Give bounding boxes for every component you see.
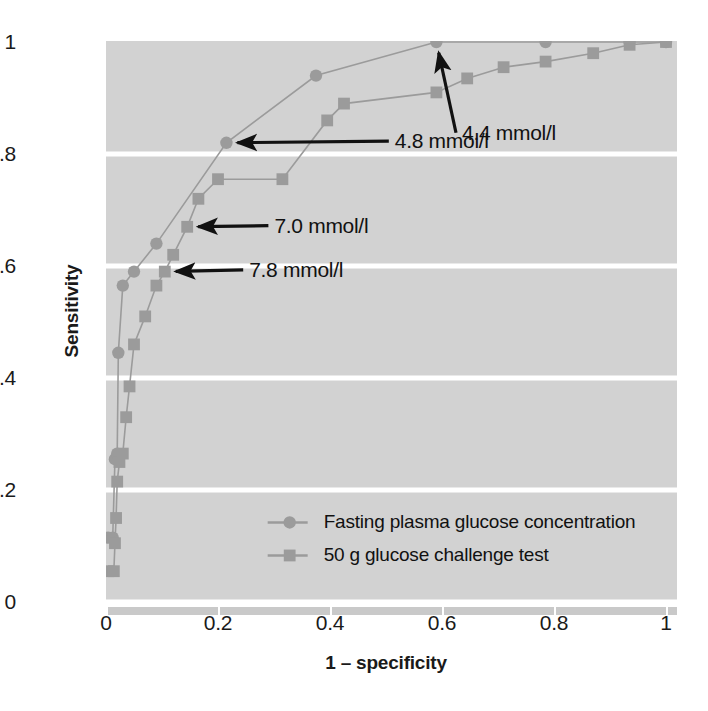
x-tick-label-1: 1 bbox=[636, 612, 696, 633]
y-tick-label-0: 0 bbox=[0, 591, 16, 612]
y-tick-label-08: 0.8 bbox=[0, 143, 16, 164]
y-tick-label-1: 1 bbox=[0, 31, 16, 52]
y-tick-label-04: 0.4 bbox=[0, 367, 16, 388]
x-tick-label-02: 0.2 bbox=[188, 612, 248, 633]
x-axis-title: 1 – specificity bbox=[106, 652, 666, 674]
annotation-label-7-8: 7.8 mmol/l bbox=[249, 259, 343, 280]
legend-label-glucose-challenge-test: 50 g glucose challenge test bbox=[324, 545, 549, 564]
x-tick-label-08: 0.8 bbox=[524, 612, 584, 633]
y-tick-label-06: 0.6 bbox=[0, 255, 16, 276]
x-tick-label-04: 0.4 bbox=[300, 612, 360, 633]
annotation-label-4-8: 4.8 mmol/l bbox=[395, 130, 489, 151]
y-axis-title: Sensitivity bbox=[61, 231, 83, 391]
x-tick-label-0: 0 bbox=[76, 612, 136, 633]
annotation-label-7-0: 7.0 mmol/l bbox=[274, 215, 368, 236]
roc-chart-figure: Sensitivity 1 – specificity 1 0.8 0.6 0.… bbox=[0, 0, 708, 711]
legend-label-fasting-plasma-glucose: Fasting plasma glucose concentration bbox=[324, 512, 636, 531]
y-tick-label-02: 0.2 bbox=[0, 479, 16, 500]
x-tick-label-06: 0.6 bbox=[412, 612, 472, 633]
